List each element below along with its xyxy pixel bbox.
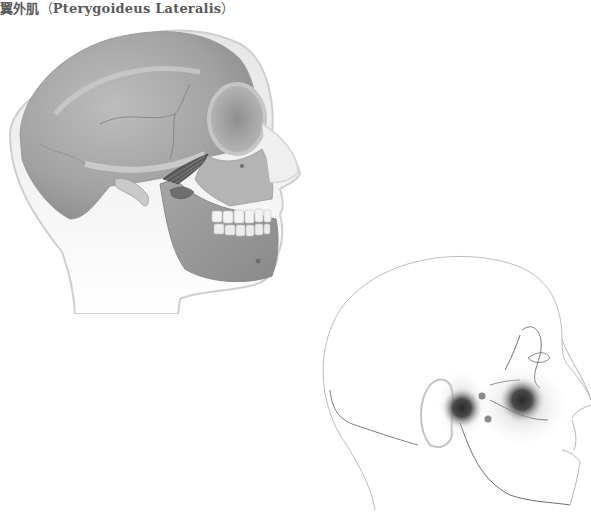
skull-lateral-view-icon — [0, 14, 320, 314]
trigger-point-upper — [479, 393, 486, 400]
tmj-pain-zone — [442, 388, 482, 428]
skull-illustration — [0, 14, 320, 314]
maxillary-pain-zone — [500, 378, 544, 422]
trigger-point-lower — [485, 416, 492, 423]
head-profile-pain-map-icon — [300, 240, 591, 517]
referred-pain-pattern-illustration — [300, 240, 591, 517]
